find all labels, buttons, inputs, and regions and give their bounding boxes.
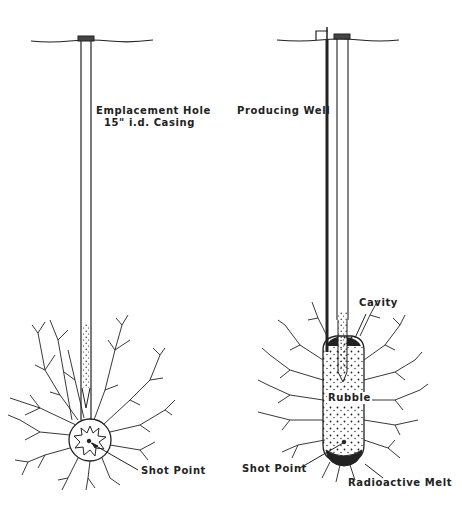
diagram-canvas [0,0,462,510]
casing-cap-right [334,34,350,39]
label-radioactive-melt: Radioactive Melt [348,477,452,489]
label-shot-point-right: Shot Point [242,463,307,475]
label-producing-well: Producing Well [237,105,330,117]
stemming-fill [82,323,90,388]
label-emplacement-hole: Emplacement Hole [96,105,211,117]
right-panel [258,27,428,482]
label-casing-size: 15" i.d. Casing [104,117,195,129]
casing-cap-left [78,36,94,41]
label-rubble: Rubble [327,392,372,404]
wellhead-fitting [316,31,328,40]
label-cavity: Cavity [359,297,398,309]
label-shot-point-left: Shot Point [141,465,206,477]
